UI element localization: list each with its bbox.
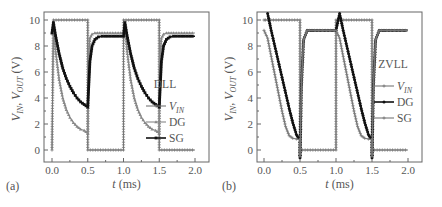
y-tick-label: 2	[248, 118, 254, 130]
legend-item-dg: DG	[374, 96, 414, 108]
x-axis-label: t (ms)	[112, 177, 140, 191]
svg-text:DG: DG	[397, 96, 414, 108]
chart-panel-a: 02468100.00.51.01.52.0t (ms)VIN, VOUT (V…	[6, 12, 209, 193]
x-tick-label: 0.5	[293, 164, 307, 176]
y-axis-label: VIN, VOUT (V)	[222, 57, 238, 121]
x-tick-label: 1.0	[329, 164, 343, 176]
y-tick-label: 4	[35, 92, 41, 104]
x-axis: 0.00.51.01.52.0	[45, 158, 202, 176]
x-tick-label: 1.5	[152, 164, 166, 176]
chart-panel-b: 02468100.00.51.01.52.0t (ms)VIN, VOUT (V…	[222, 12, 422, 193]
legend-title: ZVLL	[378, 58, 407, 70]
svg-text:VIN: VIN	[397, 80, 413, 95]
legend-item-sg: SG	[374, 112, 412, 124]
svg-text:DG: DG	[169, 116, 186, 128]
y-tick-label: 6	[35, 66, 41, 78]
y-tick-label: 8	[35, 40, 41, 52]
series-sg	[262, 29, 408, 158]
y-tick-label: 8	[248, 40, 254, 52]
y-axis: 0246810	[29, 14, 48, 156]
legend: ZVLLVINDGSG	[374, 58, 414, 124]
legend: DLLVINDGSG	[146, 78, 186, 144]
figure: 02468100.00.51.01.52.0t (ms)VIN, VOUT (V…	[0, 0, 442, 207]
svg-text:SG: SG	[169, 132, 184, 144]
y-tick-label: 4	[248, 92, 254, 104]
y-tick-label: 10	[242, 14, 254, 26]
y-axis-label: VIN, VOUT (V)	[9, 57, 25, 121]
x-tick-label: 1.0	[117, 164, 131, 176]
y-tick-label: 2	[35, 118, 41, 130]
svg-text:SG: SG	[397, 112, 412, 124]
x-tick-label: 0.0	[257, 164, 271, 176]
x-tick-label: 2.0	[188, 164, 202, 176]
svg-text:VIN: VIN	[169, 100, 185, 115]
y-tick-label: 6	[248, 66, 254, 78]
panel-label: (a)	[6, 179, 19, 193]
x-tick-label: 1.5	[365, 164, 379, 176]
y-tick-label: 0	[35, 144, 41, 156]
y-tick-label: 10	[29, 14, 41, 26]
x-tick-label: 2.0	[401, 164, 415, 176]
x-tick-label: 0.5	[81, 164, 95, 176]
y-tick-label: 0	[248, 144, 254, 156]
legend-item-v-in: VIN	[374, 80, 413, 95]
y-axis: 0246810	[242, 14, 261, 156]
x-tick-label: 0.0	[45, 164, 59, 176]
legend-title: DLL	[154, 78, 176, 90]
legend-item-sg: SG	[146, 132, 184, 144]
x-axis-label: t (ms)	[325, 177, 353, 191]
legend-item-dg: DG	[146, 116, 186, 128]
panel-label: (b)	[222, 179, 236, 193]
x-axis: 0.00.51.01.52.0	[257, 158, 415, 176]
